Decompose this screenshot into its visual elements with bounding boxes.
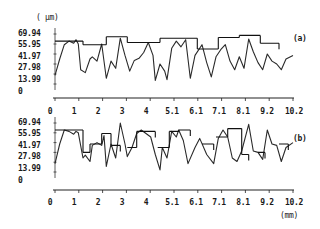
plot-area (0, 0, 320, 229)
step-envelope (55, 35, 279, 49)
profile-curve (55, 123, 293, 170)
